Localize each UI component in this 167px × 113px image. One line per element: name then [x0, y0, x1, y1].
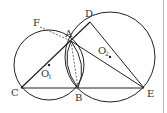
label-o1-sub: 1 [48, 73, 52, 80]
segment-ae [71, 41, 144, 88]
center-o1-dot [48, 64, 50, 66]
label-d: D [85, 8, 93, 19]
label-b: B [75, 92, 82, 103]
segment-cd [21, 22, 90, 88]
label-e: E [147, 88, 154, 99]
label-f: F [33, 17, 40, 28]
label-a: A [64, 28, 73, 39]
center-o2-dot [109, 56, 111, 58]
label-o2-sub: 2 [105, 50, 109, 57]
right-border [163, 0, 164, 113]
label-c: C [11, 87, 19, 98]
geometry-diagram: F A D C B E O 1 O 2 [0, 0, 167, 113]
